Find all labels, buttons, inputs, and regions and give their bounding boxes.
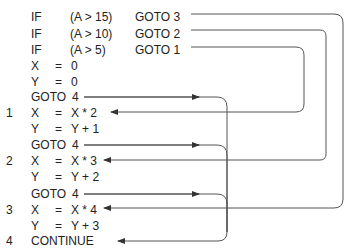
- arrow-goto-4-c: [84, 194, 227, 232]
- arrow-goto-3: [104, 14, 343, 208]
- arrow-goto-4-b: [84, 145, 227, 232]
- arrow-goto-4-a: [84, 97, 227, 241]
- arrow-goto-1: [111, 47, 304, 112]
- control-flow-arrows: [0, 0, 348, 248]
- arrow-goto-2: [104, 30, 326, 160]
